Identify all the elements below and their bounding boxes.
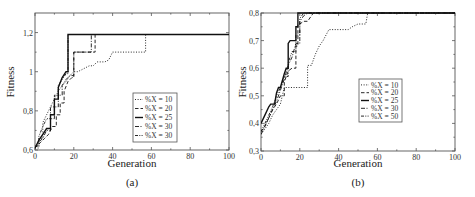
y-tick-label: 0,7 — [249, 37, 259, 46]
panel-caption: (a) — [126, 176, 139, 189]
series-line — [261, 13, 455, 134]
legend-label: %X = 10 — [145, 95, 172, 104]
series-line — [261, 13, 455, 134]
legend: %X = 10%X = 20%X = 25%X = 30%X = 30 — [133, 93, 177, 142]
x-axis-title: Generation — [334, 157, 383, 169]
y-tick-label: 0,6 — [249, 64, 259, 73]
y-tick-label: 0,4 — [249, 119, 259, 128]
y-axis-title: Fitness — [236, 66, 248, 97]
chart-panel-a: 0204060801000,60,811,2GenerationFitness(… — [4, 13, 235, 189]
x-tick-label: 100 — [449, 153, 461, 162]
legend-label: %X = 50 — [371, 112, 398, 121]
x-tick-label: 0 — [259, 153, 263, 162]
legend-label: %X = 30 — [145, 131, 172, 140]
chart-panel-b: 0204060801000,30,40,50,60,70,8Generation… — [236, 9, 461, 189]
y-tick-label: 1 — [29, 68, 33, 77]
plot-frame — [261, 13, 455, 151]
plot-frame — [35, 13, 229, 150]
y-tick-label: 1,2 — [23, 29, 33, 38]
legend-label: %X = 20 — [145, 104, 172, 113]
series-line — [35, 35, 229, 149]
series-line — [261, 13, 455, 123]
panel-caption: (b) — [352, 176, 365, 189]
x-tick-label: 0 — [33, 152, 37, 161]
legend-label: %X = 30 — [145, 122, 172, 131]
x-axis-title: Generation — [108, 157, 157, 169]
x-tick-label: 20 — [296, 153, 304, 162]
x-tick-label: 80 — [412, 153, 420, 162]
series-line — [261, 13, 455, 132]
x-tick-label: 20 — [70, 152, 78, 161]
figure: 0204060801000,60,811,2GenerationFitness(… — [0, 0, 475, 197]
series-line — [35, 35, 229, 147]
legend: %X = 10%X = 20%X = 25%X = 30%X = 50 — [359, 79, 402, 122]
legend-label: %X = 25 — [145, 113, 172, 122]
y-tick-label: 0,8 — [249, 9, 259, 18]
x-tick-label: 100 — [223, 152, 235, 161]
x-tick-label: 80 — [186, 152, 194, 161]
y-axis-title: Fitness — [4, 66, 16, 97]
series-line — [261, 13, 455, 132]
y-tick-label: 0,6 — [23, 146, 33, 155]
y-tick-label: 0,8 — [23, 107, 33, 116]
y-tick-label: 0,3 — [249, 147, 259, 156]
y-tick-label: 0,5 — [249, 92, 259, 101]
